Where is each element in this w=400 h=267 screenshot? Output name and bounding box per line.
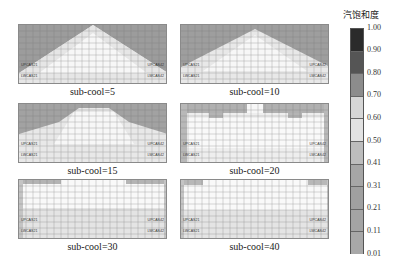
colorbar-tick: 0.50	[367, 136, 381, 145]
colorbar-band	[351, 97, 363, 120]
panel-label: sub-cool=15	[18, 165, 167, 176]
colorbar-tick: 0.21	[367, 203, 381, 212]
sensor-label: UPCAS21	[21, 63, 37, 67]
panel-subcool-20: UPCAS21 LWCAS21 UPCAS42 LWCAS42	[180, 103, 329, 163]
colorbar-title: 汽饱和度	[343, 8, 379, 21]
colorbar-band	[351, 210, 363, 233]
heatmap-subcool-40	[181, 180, 329, 239]
heatmap-subcool-30	[19, 180, 167, 239]
panel-subcool-5: UPCAS21 LWCAS21 UPCAS42 LWCAS42	[18, 24, 167, 84]
panel-subcool-40: UPCAS21 LWCAS21 UPCAS42 LWCAS42	[180, 179, 329, 239]
sensor-label: UPCAS21	[183, 218, 199, 222]
panel-label: sub-cool=5	[18, 86, 167, 97]
colorbar-tick: 0.11	[367, 226, 381, 235]
colorbar-tick: 0.31	[367, 181, 381, 190]
colorbar-band	[351, 142, 363, 165]
sensor-label: UPCAS21	[21, 142, 37, 146]
heatmap-subcool-5	[19, 25, 167, 84]
sensor-label: LWCAS21	[21, 229, 38, 233]
colorbar-band	[351, 74, 363, 97]
sensor-label: LWCAS21	[21, 74, 38, 78]
colorbar-band	[351, 52, 363, 75]
sensor-label: LWCAS21	[21, 153, 38, 157]
sensor-label: UPCAS42	[148, 63, 164, 67]
colorbar-band	[351, 29, 363, 52]
colorbar-tick: 0.01	[367, 249, 381, 258]
colorbar-tick: 0.80	[367, 68, 381, 77]
heatmap-subcool-15	[19, 104, 167, 163]
panel-subcool-15: UPCAS21 LWCAS21 UPCAS42 LWCAS42	[18, 103, 167, 163]
sensor-label: UPCAS42	[148, 218, 164, 222]
sensor-label: LWCAS42	[147, 74, 164, 78]
sensor-label: LWCAS42	[147, 153, 164, 157]
panel-label: sub-cool=30	[18, 241, 167, 252]
heatmap-subcool-10	[181, 25, 329, 84]
panel-label: sub-cool=40	[180, 241, 329, 252]
sensor-label: UPCAS42	[310, 142, 326, 146]
sensor-label: LWCAS21	[183, 153, 200, 157]
colorbar-band	[351, 232, 363, 254]
colorbar-tick: 1.00	[367, 23, 381, 32]
sensor-label: UPCAS21	[183, 63, 199, 67]
colorbar-tick: 0.60	[367, 113, 381, 122]
sensor-label: LWCAS42	[147, 229, 164, 233]
colorbar-tick: 0.90	[367, 45, 381, 54]
colorbar-tick: 0.70	[367, 90, 381, 99]
sensor-label: LWCAS42	[309, 74, 326, 78]
colorbar-band	[351, 119, 363, 142]
sensor-label: UPCAS21	[21, 218, 37, 222]
colorbar-tick: 0.41	[367, 158, 381, 167]
sensor-label: LWCAS21	[183, 74, 200, 78]
panel-label: sub-cool=10	[180, 86, 329, 97]
colorbar-band	[351, 165, 363, 188]
colorbar	[350, 28, 364, 254]
sensor-label: LWCAS42	[309, 153, 326, 157]
sensor-label: UPCAS42	[310, 63, 326, 67]
sensor-label: LWCAS21	[183, 229, 200, 233]
colorbar-band	[351, 187, 363, 210]
heatmap-subcool-20	[181, 104, 329, 163]
panel-label: sub-cool=20	[180, 165, 329, 176]
sensor-label: LWCAS42	[309, 229, 326, 233]
sensor-label: UPCAS42	[148, 142, 164, 146]
sensor-label: UPCAS42	[310, 218, 326, 222]
panel-subcool-10: UPCAS21 LWCAS21 UPCAS42 LWCAS42	[180, 24, 329, 84]
sensor-label: UPCAS21	[183, 142, 199, 146]
panel-subcool-30: UPCAS21 LWCAS21 UPCAS42 LWCAS42	[18, 179, 167, 239]
